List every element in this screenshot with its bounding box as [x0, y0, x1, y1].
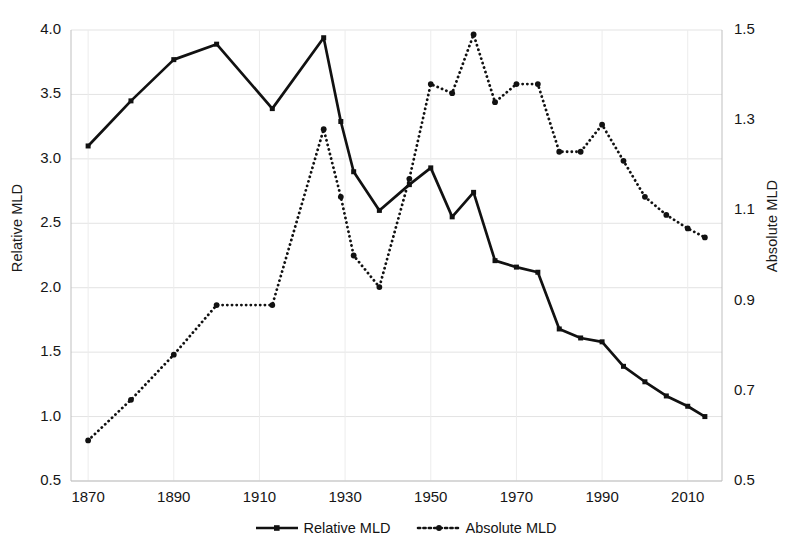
data-point	[377, 208, 382, 213]
data-point	[214, 302, 220, 308]
data-point	[642, 379, 647, 384]
data-point	[351, 253, 357, 259]
data-point	[128, 98, 133, 103]
data-point	[642, 194, 648, 200]
y-axis-right-tick-label: 0.5	[734, 471, 780, 488]
y-axis-left-tick-label: 1.5	[19, 342, 61, 359]
legend-item-absolute-mld[interactable]: Absolute MLD	[416, 520, 556, 536]
data-point	[338, 119, 343, 124]
y-axis-right-tick-label: 0.7	[734, 381, 780, 398]
legend-label-absolute-mld: Absolute MLD	[465, 520, 556, 536]
data-point	[85, 438, 91, 444]
x-axis-tick-label: 1970	[486, 488, 546, 505]
x-axis-tick-label: 1930	[315, 488, 375, 505]
data-point	[514, 81, 520, 87]
data-point	[557, 326, 562, 331]
legend-dotted-line-icon	[416, 521, 462, 535]
data-point	[621, 364, 626, 369]
y-axis-left-tick-label: 3.5	[19, 84, 61, 101]
data-point	[171, 352, 177, 358]
legend-item-relative-mld[interactable]: Relative MLD	[254, 520, 390, 536]
x-axis-tick-label: 1990	[572, 488, 632, 505]
y-axis-left-tick-label: 2.5	[19, 213, 61, 230]
x-axis-tick-label: 2010	[658, 488, 718, 505]
y-axis-left-tick-label: 4.0	[19, 20, 61, 37]
x-axis-tick-label: 1950	[401, 488, 461, 505]
y-axis-left-tick-label: 1.0	[19, 407, 61, 424]
data-point	[600, 339, 605, 344]
data-point	[214, 42, 219, 47]
y-axis-right-title: Absolute MLD	[764, 166, 780, 286]
data-point	[321, 35, 326, 40]
chart-legend: Relative MLD Absolute MLD	[0, 520, 811, 536]
series-absolute-mld	[85, 32, 708, 444]
data-point	[471, 32, 477, 38]
data-point	[578, 335, 583, 340]
data-point	[351, 169, 356, 174]
y-axis-right-tick-label: 1.1	[734, 200, 780, 217]
data-point	[338, 194, 344, 200]
data-point	[376, 284, 382, 290]
data-point	[664, 393, 669, 398]
y-axis-left-tick-label: 0.5	[19, 471, 61, 488]
data-point	[535, 270, 540, 275]
x-axis-tick-label: 1890	[144, 488, 204, 505]
data-point	[428, 165, 433, 170]
x-axis-tick-label: 1910	[229, 488, 289, 505]
data-point	[621, 158, 627, 164]
y-axis-right-tick-label: 1.5	[734, 20, 780, 37]
gridlines	[71, 30, 722, 481]
data-point	[171, 57, 176, 62]
chart-plot-area	[0, 0, 811, 556]
data-series-layer	[85, 32, 708, 444]
data-point	[493, 258, 498, 263]
data-point	[471, 190, 476, 195]
data-point	[269, 302, 275, 308]
data-point	[535, 81, 541, 87]
data-point	[556, 149, 562, 155]
data-point	[702, 235, 708, 241]
data-point	[128, 397, 134, 403]
data-point	[685, 404, 690, 409]
data-point	[599, 122, 605, 128]
legend-solid-line-icon	[254, 521, 300, 535]
data-point	[702, 414, 707, 419]
y-axis-left-tick-label: 3.0	[19, 149, 61, 166]
axis-lines	[71, 30, 722, 481]
chart-figure: Relative MLD Absolute MLD 0.51.01.52.02.…	[0, 0, 811, 556]
data-point	[449, 90, 455, 96]
data-point	[450, 214, 455, 219]
y-axis-right-tick-label: 0.9	[734, 291, 780, 308]
data-point	[321, 126, 327, 132]
x-axis-tick-label: 1870	[58, 488, 118, 505]
data-point	[514, 265, 519, 270]
data-point	[428, 81, 434, 87]
data-point	[578, 149, 584, 155]
data-point	[663, 212, 669, 218]
y-axis-right-tick-label: 1.3	[734, 110, 780, 127]
data-point	[86, 143, 91, 148]
data-point	[685, 226, 691, 232]
y-axis-left-tick-label: 2.0	[19, 278, 61, 295]
data-point	[270, 106, 275, 111]
data-point	[406, 176, 412, 182]
legend-label-relative-mld: Relative MLD	[303, 520, 390, 536]
data-point	[492, 99, 498, 105]
